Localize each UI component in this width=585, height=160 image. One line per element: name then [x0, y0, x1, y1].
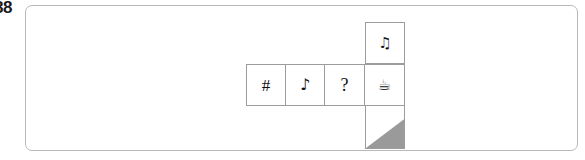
number-sign-icon: # — [262, 77, 271, 94]
net-face-row-2: ♪ — [285, 64, 325, 106]
question-mark-icon: ? — [341, 76, 349, 94]
eighth-note-icon: ♪ — [300, 77, 310, 93]
net-face-row-4: ☕ — [364, 64, 405, 106]
net-face-row-1: # — [246, 64, 286, 106]
net-face-top: ♫ — [365, 22, 405, 64]
net-face-row-3: ? — [324, 64, 365, 106]
beamed-music-note-icon: ♫ — [378, 36, 391, 51]
figure-number: 88 — [0, 0, 12, 18]
shaded-triangle-icon — [366, 106, 404, 148]
figure-panel: ♫ # ♪ ? ☕ — [25, 5, 578, 151]
net-face-bottom — [365, 105, 405, 149]
cube-net-diagram: ♫ # ♪ ? ☕ — [246, 22, 405, 149]
hot-beverage-icon: ☕ — [378, 78, 391, 93]
